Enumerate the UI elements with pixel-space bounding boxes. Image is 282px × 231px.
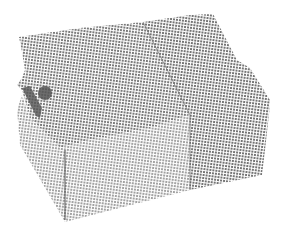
halftone-box-figure (0, 0, 282, 231)
image-canvas (0, 0, 282, 231)
